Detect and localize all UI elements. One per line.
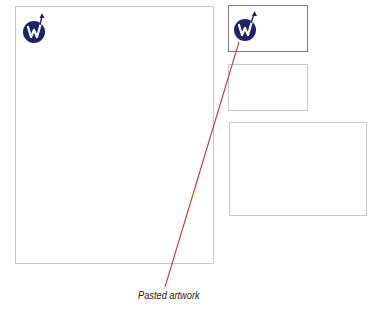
- callout-label: Pasted artwork: [138, 289, 200, 301]
- callout-leader-line: [0, 0, 383, 312]
